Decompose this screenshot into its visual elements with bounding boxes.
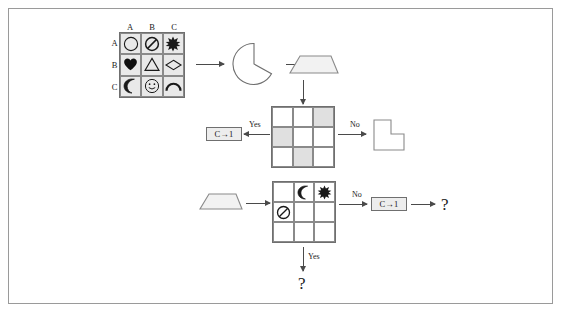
symbol-cell-b-b xyxy=(141,54,162,75)
star-icon xyxy=(165,36,181,52)
no-entry-icon xyxy=(276,205,291,220)
symbol-cell-c-b xyxy=(141,76,162,97)
symbol-grid xyxy=(119,32,185,98)
symbol-grid-row-header-a: A xyxy=(110,38,119,48)
result-cell-2-3 xyxy=(314,202,335,222)
arrow-trapezoid-to-shadedgrid xyxy=(303,80,304,104)
shaded-cell-3-3 xyxy=(313,147,334,167)
symbol-cell-c-a xyxy=(120,76,141,97)
result-cell-1-3 xyxy=(314,182,335,202)
symbol-cell-a-b xyxy=(141,33,162,54)
shaded-cell-3-2 xyxy=(293,147,314,167)
arrow-trapezoid-to-resultgrid xyxy=(246,203,270,204)
arrow-no-upper xyxy=(338,134,366,135)
label-no-upper: No xyxy=(350,120,360,129)
shaded-cell-1-3 xyxy=(313,107,334,127)
crescent-moon-icon xyxy=(123,78,138,94)
arrow-yes-upper xyxy=(244,134,270,135)
heart-filled-icon xyxy=(123,57,138,72)
result-cell-2-2 xyxy=(294,202,315,222)
diagram-canvas: A B C A B C xyxy=(0,0,563,314)
circle-icon xyxy=(123,36,139,52)
symbol-grid-row-header-c: C xyxy=(110,82,119,92)
shaded-cell-3-1 xyxy=(272,147,293,167)
arrow-symbolgrid-to-pacman xyxy=(196,64,224,65)
result-cell-3-1 xyxy=(273,222,294,242)
symbol-cell-b-c xyxy=(163,54,184,75)
arc-icon xyxy=(165,80,182,92)
arrow-no-lower xyxy=(339,204,367,205)
shaded-cell-1-2 xyxy=(293,107,314,127)
shaded-cell-2-3 xyxy=(313,127,334,147)
shaded-cell-1-1 xyxy=(272,107,293,127)
result-cell-1-1 xyxy=(273,182,294,202)
trapezoid-top-shape xyxy=(288,54,340,76)
l-shaped-polygon xyxy=(372,118,406,152)
question-mark-bottom: ? xyxy=(298,275,306,292)
symbol-cell-c-c xyxy=(163,76,184,97)
label-yes-lower: Yes xyxy=(308,252,320,261)
rule-box-lower[interactable]: C→1 xyxy=(371,197,407,211)
symbol-grid-col-header-b: B xyxy=(141,22,163,32)
symbol-cell-b-a xyxy=(120,54,141,75)
trapezoid-bottom-shape xyxy=(198,192,244,212)
shaded-cell-2-2 xyxy=(293,127,314,147)
result-grid xyxy=(272,181,336,243)
arrow-yes-lower xyxy=(303,247,304,271)
triangle-icon xyxy=(144,57,160,72)
diamond-icon xyxy=(165,59,182,71)
symbol-grid-row-header-b: B xyxy=(110,60,119,70)
label-yes-upper: Yes xyxy=(249,120,261,129)
symbol-cell-a-c xyxy=(163,33,184,54)
no-entry-icon xyxy=(144,36,160,52)
smiley-face-icon xyxy=(144,78,160,94)
arrow-rule-to-question xyxy=(411,204,435,205)
result-cell-1-2 xyxy=(294,182,315,202)
pacman-shape xyxy=(232,42,276,86)
result-cell-2-1 xyxy=(273,202,294,222)
result-cell-3-2 xyxy=(294,222,315,242)
question-mark-right: ? xyxy=(441,196,449,213)
result-cell-3-3 xyxy=(314,222,335,242)
crescent-moon-icon xyxy=(297,185,311,200)
symbol-grid-col-header-c: C xyxy=(163,22,185,32)
shaded-cell-2-1 xyxy=(272,127,293,147)
label-no-lower: No xyxy=(352,190,362,199)
symbol-cell-a-a xyxy=(120,33,141,54)
symbol-grid-col-header-a: A xyxy=(119,22,141,32)
shaded-grid xyxy=(271,106,335,168)
star-icon xyxy=(317,185,332,200)
rule-box-upper[interactable]: C→1 xyxy=(206,127,242,141)
